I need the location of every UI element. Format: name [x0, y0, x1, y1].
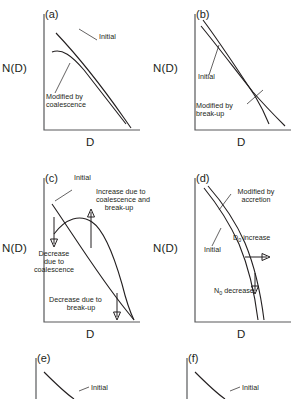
- panel-a-graphics: [0, 0, 151, 160]
- panel-c-decrease-breakup-line2: break-up: [49, 304, 113, 312]
- panel-a: (a) N(D) D Initial Modified by coalescen…: [0, 0, 151, 160]
- panel-e-initial-leader: [79, 387, 89, 391]
- panel-e-initial-curve: [44, 372, 74, 399]
- panel-d-d0-subscript: 0: [238, 237, 241, 243]
- panel-c: (c) N(D) D Initial Increase due to coale…: [0, 160, 151, 340]
- panel-c-decrease-coalescence-line3: coalescence: [29, 266, 79, 274]
- panel-c-x-axis-label: D: [86, 328, 94, 340]
- panel-d-initial-label: Initial: [204, 246, 221, 254]
- panel-a-x-axis-label: D: [86, 136, 94, 148]
- panel-d-n0-subscript: 0: [219, 290, 222, 296]
- panel-d-d0-increase-label: D0 increase: [233, 234, 270, 242]
- panel-b: (b) N(D) D Initial Modified by break-up: [151, 0, 302, 160]
- panel-a-tag: (a): [45, 8, 58, 20]
- figure-drop-size-distributions: (a) N(D) D Initial Modified by coalescen…: [0, 0, 302, 399]
- panel-c-initial-leader: [55, 190, 72, 201]
- panel-d: (d) N(D) D Modified by accretion Initial…: [151, 160, 302, 340]
- panel-f-graphics: [151, 340, 302, 399]
- panel-a-initial-leader: [79, 29, 97, 40]
- panel-e: (e) Initial: [0, 340, 151, 399]
- panel-b-modified-leader: [247, 90, 263, 104]
- panel-b-graphics: [151, 0, 302, 160]
- panel-b-modified-label-line2: break-up: [196, 110, 224, 118]
- panel-d-n0-decrease-label: N0 decrease: [214, 287, 254, 295]
- panel-f-initial-curve: [195, 372, 225, 399]
- panel-e-graphics: [0, 340, 151, 399]
- panel-f-initial-label: Initial: [242, 384, 259, 392]
- panel-d-x-axis-label: D: [237, 328, 245, 340]
- panel-d-n0-text: decrease: [222, 286, 254, 295]
- panel-c-y-axis-label: N(D): [2, 242, 27, 254]
- panel-e-tag: (e): [37, 352, 50, 364]
- panel-d-y-axis-label: N(D): [153, 242, 178, 254]
- panel-f: (f) Initial: [151, 340, 302, 399]
- panel-f-initial-leader: [230, 387, 240, 391]
- panel-d-initial-leader: [212, 228, 221, 246]
- panel-b-initial-label: Initial: [198, 73, 215, 81]
- panel-d-modified-accretion-line2: accretion: [228, 196, 284, 204]
- panel-a-modified-leader: [55, 63, 70, 93]
- panel-c-increase-label-line3: break-up: [96, 204, 142, 212]
- panel-e-initial-label: Initial: [91, 384, 108, 392]
- panel-a-modified-label-line2: coalescence: [46, 101, 86, 109]
- panel-a-initial-curve: [56, 33, 131, 128]
- panel-a-modified-curve: [52, 51, 126, 124]
- panel-d-d0-text: increase: [241, 233, 270, 242]
- panel-c-tag: (c): [45, 172, 58, 184]
- panel-a-axes: [44, 14, 140, 130]
- panel-a-initial-label: Initial: [99, 33, 116, 41]
- panel-d-tag: (d): [196, 172, 209, 184]
- panel-b-x-axis-label: D: [237, 136, 245, 148]
- panel-a-y-axis-label: N(D): [2, 62, 27, 74]
- panel-f-tag: (f): [188, 352, 198, 364]
- panel-b-y-axis-label: N(D): [153, 62, 178, 74]
- panel-c-initial-label: Initial: [74, 174, 91, 182]
- panel-b-initial-leader: [209, 45, 219, 75]
- panel-b-tag: (b): [196, 8, 209, 20]
